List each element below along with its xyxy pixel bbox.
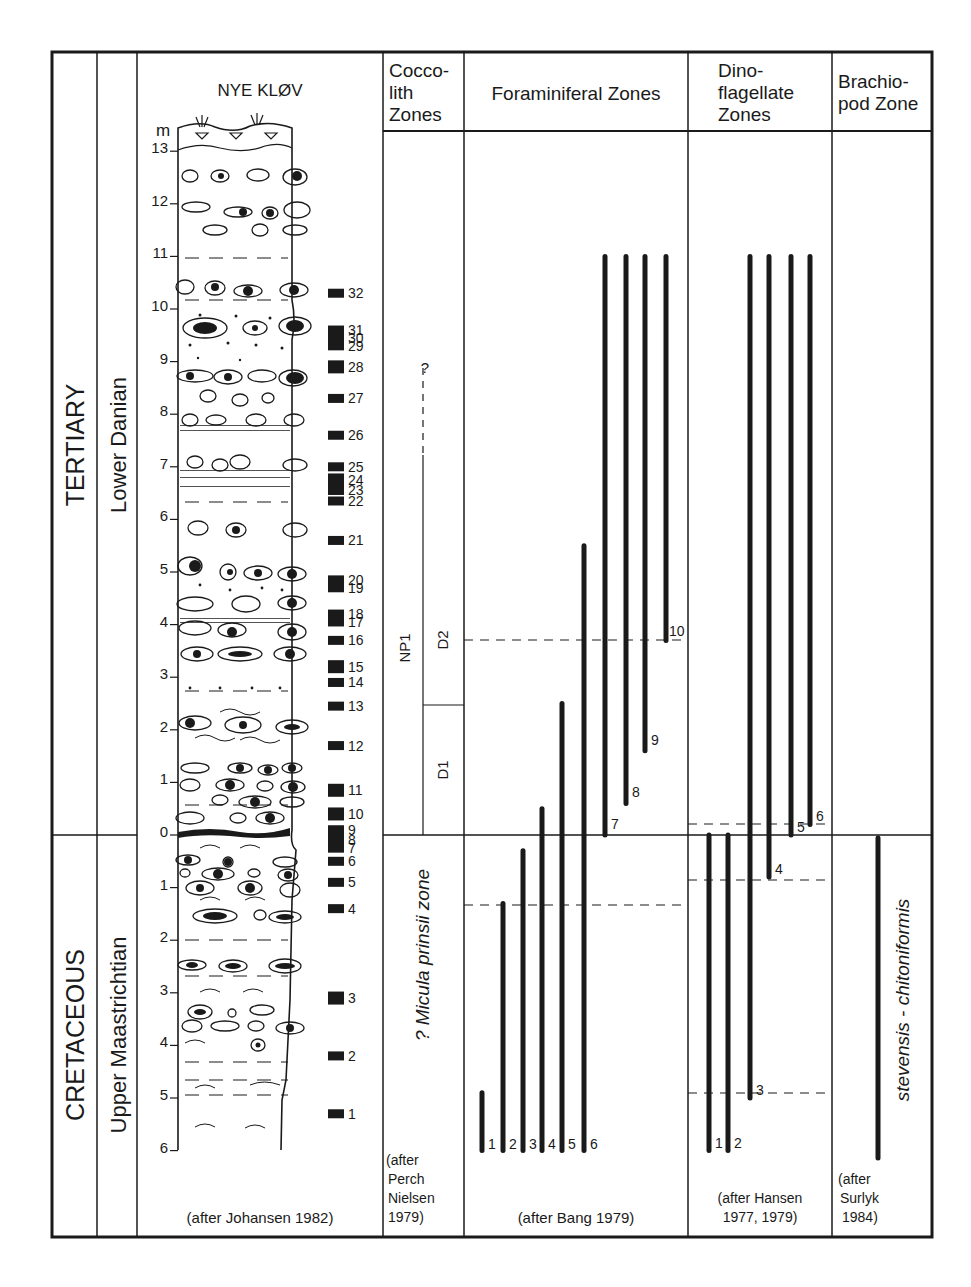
depth-tick-label: 4 [160,613,168,630]
sample-marker [328,326,344,335]
sample-label: 14 [348,674,364,690]
foraminiferal-range-label: 2 [509,1136,517,1152]
depth-tick-label: 4 [160,1033,168,1050]
micula-prinsii-zone: ? Micula prinsii zone [412,869,433,1041]
coccolith-zones: ? NP1 D2 D1 ? Micula prinsii zone (after… [386,359,464,1225]
sample-marker [328,878,344,887]
sample-label: 31 [348,322,364,338]
stage-lower-danian: Lower Danian [106,377,131,513]
stratigraphic-range-chart: Cocco- lith Zones Foraminiferal Zones Di… [0,0,971,1287]
foraminiferal-range-label: 8 [632,784,640,800]
sample-marker [328,807,344,820]
system-cretaceous: CRETACEOUS [61,949,89,1121]
sample-label: 2 [348,1048,356,1064]
foraminiferal-ranges: 12345678910 [482,256,685,1151]
chart-frame [52,52,932,1237]
brachiopod-zone-name: stevensis - chitoniformis [892,898,913,1101]
coccolith-source-4: 1979) [388,1209,424,1225]
sample-marker [328,660,344,673]
sample-label: 26 [348,427,364,443]
coccolith-source-3: Nielsen [388,1190,435,1206]
section-log: NYE KLØV m [151,81,363,1226]
section-source: (after Johansen 1982) [187,1209,334,1226]
subzone-d2: D2 [434,630,451,649]
header-dinoflagellate-1: Dino- [718,60,763,81]
sample-marker [328,431,344,440]
sample-marker [328,1109,344,1118]
sample-label: 28 [348,359,364,375]
dinoflagellate-range-label: 4 [775,861,783,877]
soil-symbols [196,113,277,139]
depth-tick-label: 13 [151,139,168,156]
sample-marker [328,575,344,584]
depth-tick-label: 11 [152,244,168,261]
header-dinoflagellate-3: Zones [718,104,771,125]
dinoflagellate-range-label: 1 [715,1135,723,1151]
section-title: NYE KLØV [217,81,303,100]
header-brachiopod-2: pod Zone [838,93,918,114]
depth-tick-label: 5 [160,560,168,577]
dinoflagellate-range-label: 3 [756,1082,764,1098]
sample-marker [328,289,344,298]
foraminiferal-range-label: 6 [590,1136,598,1152]
sample-label: 9 [348,822,356,838]
sample-marker [328,360,344,373]
coccolith-query: ? [421,359,429,376]
sample-label: 20 [348,572,364,588]
depth-tick-label: 1 [160,876,168,893]
depth-tick-label: 5 [160,1086,168,1103]
sample-label: 3 [348,990,356,1006]
sample-label: 1 [348,1106,356,1122]
foraminiferal-range-label: 10 [669,623,685,639]
brachiopod-source-2: Surlyk [840,1190,880,1206]
sample-marker [328,741,344,750]
depth-tick-label: 10 [151,297,168,314]
system-tertiary: TERTIARY [61,383,89,506]
depth-axis: 131211109876543210123456 [151,139,178,1155]
depth-tick-label: 2 [160,928,168,945]
system-stage-labels: TERTIARY CRETACEOUS Lower Danian Upper M… [61,377,131,1133]
sample-marker [328,536,344,545]
stage-upper-maastrichtian: Upper Maastrichtian [106,937,131,1134]
sample-label: 5 [348,874,356,890]
sample-label: 4 [348,901,356,917]
depth-tick-label: 6 [160,1139,168,1156]
header-dinoflagellate-2: flagellate [718,82,794,103]
depth-tick-label: 2 [160,718,168,735]
sample-marker [328,462,344,471]
dinoflagellate-source-1: (after Hansen [718,1190,803,1206]
sample-marker [328,857,344,866]
sample-marker [328,1051,344,1060]
foraminiferal-source: (after Bang 1979) [518,1209,635,1226]
coccolith-source-2: Perch [388,1171,425,1187]
brachiopod-zone: stevensis - chitoniformis (after Surlyk … [838,838,913,1225]
sample-label: 27 [348,390,364,406]
dinoflagellate-range-label: 6 [816,808,824,824]
unit-label: m [156,121,170,140]
sample-marker [328,784,344,797]
sample-label: 11 [348,782,363,798]
depth-tick-label: 0 [160,823,168,840]
column-headers: Cocco- lith Zones Foraminiferal Zones Di… [389,60,918,125]
header-brachiopod-1: Brachio- [838,71,909,92]
coccolith-source-1: (after [386,1152,419,1168]
dinoflagellate-source-2: 1977, 1979) [723,1209,798,1225]
depth-tick-label: 6 [160,507,168,524]
sample-marker [328,834,344,847]
sample-marker [328,394,344,403]
kt-boundary-layer [178,828,290,838]
sample-label: 12 [348,738,364,754]
brachiopod-source-1: (after [838,1171,871,1187]
sample-label: 25 [348,459,364,475]
dinoflagellate-ranges: 123456 [709,256,824,1150]
foraminiferal-range-label: 1 [488,1136,496,1152]
header-coccolith-1: Cocco- [389,60,449,81]
sample-label: 21 [348,532,364,548]
foraminiferal-range-label: 9 [651,732,659,748]
depth-tick-label: 9 [160,350,168,367]
zone-np1: NP1 [396,633,413,662]
sample-label: 13 [348,698,364,714]
sample-marker [328,617,344,626]
sample-marker [328,904,344,913]
depth-tick-label: 3 [160,981,168,998]
